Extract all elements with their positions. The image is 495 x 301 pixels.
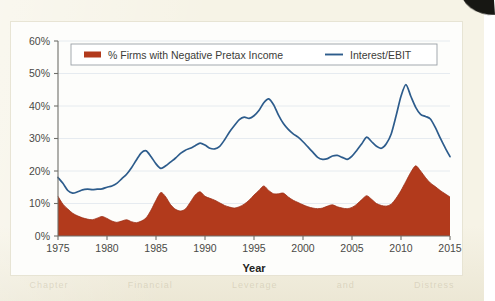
legend-label-interest-ebit: Interest/EBIT — [350, 49, 412, 61]
x-axis-tick-label: 2015 — [438, 242, 462, 254]
y-axis-tick-label: 10% — [29, 197, 50, 209]
x-axis-tick-label: 1980 — [95, 242, 119, 254]
x-axis-tick-label: 1995 — [242, 242, 266, 254]
chart-svg: 0%10%20%30%40%50%60% 1975198019851990199… — [11, 22, 462, 275]
x-axis-title: Year — [242, 262, 266, 274]
legend-label-negative-pretax-income: % Firms with Negative Pretax Income — [108, 49, 283, 61]
x-axis-tick-label: 2000 — [291, 242, 315, 254]
page-bleed-through-text: Chapter Financial Leverage and Distress — [0, 272, 484, 298]
y-axis-tick-labels: 0%10%20%30%40%50%60% — [29, 35, 50, 242]
x-axis-tick-label: 1975 — [46, 242, 70, 254]
bleed-word: Financial — [128, 280, 173, 290]
y-axis-tick-label: 50% — [29, 67, 50, 79]
y-axis-tick-label: 60% — [29, 35, 50, 47]
y-axis-tick-label: 30% — [29, 132, 50, 144]
figure-card: 0%10%20%30%40%50%60% 1975198019851990199… — [11, 22, 462, 275]
y-axis-tick-label: 40% — [29, 100, 50, 112]
legend-swatch-negative-pretax-income — [84, 52, 101, 58]
x-axis-tick-label: 1985 — [144, 242, 168, 254]
series-area-negative-pretax-income — [58, 166, 450, 236]
y-axis-tick-label: 0% — [35, 230, 50, 242]
corner-scan-artifact-icon — [459, 0, 495, 17]
x-axis-tick-labels: 197519801985199019952000200520102015 — [46, 242, 462, 254]
bleed-word: Chapter — [30, 280, 69, 290]
bleed-word: Leverage — [232, 280, 278, 290]
x-axis-tick-label: 1990 — [193, 242, 217, 254]
y-axis-tick-label: 20% — [29, 165, 50, 177]
bleed-word: Distress — [414, 280, 455, 290]
x-axis-tick-label: 2005 — [340, 242, 364, 254]
bleed-word: and — [337, 280, 355, 290]
chart-canvas: 0%10%20%30%40%50%60% 1975198019851990199… — [11, 22, 462, 275]
x-axis-tick-label: 2010 — [389, 242, 413, 254]
chart-legend: % Firms with Negative Pretax Income Inte… — [71, 44, 437, 65]
